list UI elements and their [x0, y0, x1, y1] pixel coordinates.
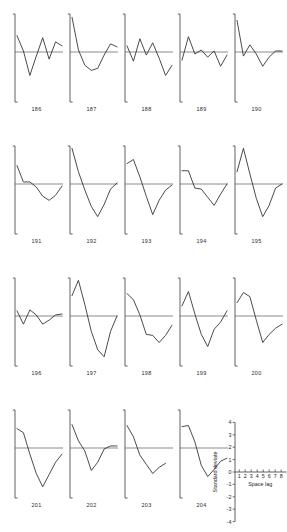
panel-196: 196: [8, 272, 65, 392]
svg-text:-1: -1: [227, 481, 232, 487]
panel-plot: [173, 140, 230, 240]
axis-key-panel: 43210-1-2-3-412345678Space lagStandard d…: [205, 416, 287, 532]
panel-label: 198: [118, 370, 175, 376]
panel-187: 187: [63, 8, 120, 128]
panel-label: 191: [8, 238, 65, 244]
svg-text:6: 6: [268, 473, 271, 479]
panel-label: 189: [173, 106, 230, 112]
svg-text:5: 5: [262, 473, 265, 479]
svg-text:1: 1: [238, 473, 241, 479]
panel-plot: [63, 404, 120, 504]
svg-text:4: 4: [228, 419, 231, 425]
panel-200: 200: [228, 272, 285, 392]
panel-label: 195: [228, 238, 285, 244]
panel-label: 197: [63, 370, 120, 376]
panel-label: 187: [63, 106, 120, 112]
panel-195: 195: [228, 140, 285, 260]
panel-194: 194: [173, 140, 230, 260]
panel-row: 196 197 198 199 200: [0, 272, 287, 392]
correlogram-figure: 186 187 188 189 190 191 192 1: [0, 0, 287, 532]
panel-label: 200: [228, 370, 285, 376]
svg-text:4: 4: [256, 473, 259, 479]
svg-text:Standard deviate: Standard deviate: [212, 452, 218, 493]
panel-label: 192: [63, 238, 120, 244]
svg-text:8: 8: [280, 473, 283, 479]
panel-199: 199: [173, 272, 230, 392]
panel-plot: [8, 404, 65, 504]
panel-label: 190: [228, 106, 285, 112]
panel-plot: [63, 140, 120, 240]
panel-192: 192: [63, 140, 120, 260]
panel-plot: [8, 140, 65, 240]
svg-text:3: 3: [250, 473, 253, 479]
panel-203: 203: [118, 404, 175, 524]
panel-plot: [8, 8, 65, 108]
panel-plot: [63, 8, 120, 108]
svg-text:-2: -2: [227, 494, 232, 500]
panel-197: 197: [63, 272, 120, 392]
axis-key-plot: 43210-1-2-3-412345678Space lagStandard d…: [205, 416, 287, 532]
panel-plot: [118, 8, 175, 108]
panel-190: 190: [228, 8, 285, 128]
panel-label: 196: [8, 370, 65, 376]
panel-188: 188: [118, 8, 175, 128]
panel-202: 202: [63, 404, 120, 524]
panel-193: 193: [118, 140, 175, 260]
panel-plot: [118, 272, 175, 372]
panel-189: 189: [173, 8, 230, 128]
panel-198: 198: [118, 272, 175, 392]
panel-label: 186: [8, 106, 65, 112]
panel-plot: [8, 272, 65, 372]
svg-text:2: 2: [244, 473, 247, 479]
panel-label: 202: [63, 502, 120, 508]
panel-label: 201: [8, 502, 65, 508]
panel-row: 191 192 193 194 195: [0, 140, 287, 260]
svg-text:1: 1: [228, 457, 231, 463]
panel-label: 194: [173, 238, 230, 244]
panel-label: 188: [118, 106, 175, 112]
panel-label: 199: [173, 370, 230, 376]
svg-text:0: 0: [228, 469, 231, 475]
panel-plot: [118, 140, 175, 240]
panel-plot: [63, 272, 120, 372]
panel-191: 191: [8, 140, 65, 260]
svg-text:7: 7: [274, 473, 277, 479]
svg-text:2: 2: [228, 444, 231, 450]
panel-plot: [173, 8, 230, 108]
panel-plot: [228, 8, 285, 108]
svg-text:-4: -4: [227, 519, 232, 525]
panel-plot: [228, 272, 285, 372]
panel-label: 193: [118, 238, 175, 244]
panel-plot: [173, 272, 230, 372]
panel-186: 186: [8, 8, 65, 128]
panel-plot: [118, 404, 175, 504]
panel-row: 186 187 188 189 190: [0, 8, 287, 128]
svg-text:3: 3: [228, 432, 231, 438]
panel-201: 201: [8, 404, 65, 524]
panel-label: 203: [118, 502, 175, 508]
svg-text:-3: -3: [227, 506, 232, 512]
panel-plot: [228, 140, 285, 240]
svg-text:Space lag: Space lag: [248, 481, 272, 487]
